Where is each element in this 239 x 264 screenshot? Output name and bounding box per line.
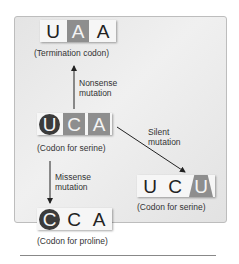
divider: [20, 255, 216, 256]
nucleotide: A: [88, 113, 110, 135]
nucleotide-highlighted: U: [39, 114, 60, 135]
nucleotide: U: [139, 175, 161, 197]
nucleotide-mutated: C: [39, 209, 60, 230]
missense-mutation-label: Missense mutation: [55, 172, 91, 192]
nonsense-mutation-label: Nonsense mutation: [79, 78, 117, 98]
proline-codon-caption: (Codon for proline): [37, 236, 108, 246]
nucleotide: U: [42, 20, 64, 42]
nucleotide: C: [63, 208, 85, 230]
serine-codon-silent-caption: (Codon for serine): [137, 202, 206, 212]
nucleotide: A: [88, 208, 110, 230]
termination-codon-caption: (Termination codon): [34, 48, 109, 58]
silent-mutation-label: Silent mutation: [148, 127, 181, 147]
nucleotide-mutated: A: [67, 20, 89, 42]
proline-codon: C C A: [37, 208, 112, 230]
serine-codon-original: U C A: [37, 113, 112, 135]
termination-codon: U A A: [40, 20, 116, 42]
nucleotide: C: [164, 175, 186, 197]
nucleotide-mutated: U: [189, 175, 213, 197]
serine-codon-caption: (Codon for serine): [37, 143, 106, 153]
nucleotide: C: [63, 113, 85, 135]
mutation-arrows: [0, 0, 239, 264]
nucleotide: A: [92, 20, 114, 42]
serine-codon-silent: U C U: [137, 175, 215, 197]
